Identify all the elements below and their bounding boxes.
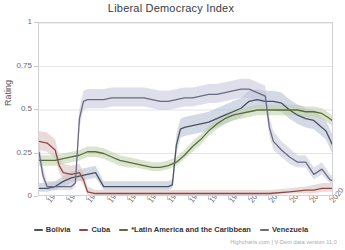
- y-axis-tick-label: 1: [0, 18, 32, 26]
- legend-label: Cuba: [91, 225, 110, 234]
- legend-item[interactable]: *Latin America and the Caribbean: [119, 225, 251, 234]
- legend-dash-icon: [34, 229, 43, 231]
- y-axis-tick-label: 0.5: [0, 105, 32, 113]
- y-axis-tick: [34, 196, 38, 197]
- legend-dash-icon: [79, 229, 88, 231]
- y-axis-tick-label: 0.75: [0, 62, 32, 70]
- chart-title: Liberal Democracy Index: [0, 2, 342, 14]
- chart-legend: BoliviaCuba*Latin America and the Caribb…: [0, 225, 342, 234]
- y-axis-title: Rating: [3, 63, 13, 123]
- credits-text: Highcharts.com | V-Dem data version 11.0: [230, 239, 337, 245]
- legend-dash-icon: [260, 229, 269, 231]
- legend-label: *Latin America and the Caribbean: [131, 225, 251, 234]
- y-axis-tick-label: 0: [0, 192, 32, 200]
- legend-item[interactable]: Cuba: [79, 225, 110, 234]
- y-axis-tick-label: 0.25: [0, 149, 32, 157]
- legend-label: Venezuela: [272, 225, 308, 234]
- legend-item[interactable]: Bolivia: [34, 225, 71, 234]
- legend-dash-icon: [119, 229, 128, 231]
- legend-label: Bolivia: [46, 225, 71, 234]
- plot-area: [38, 22, 333, 196]
- plot-svg: [39, 23, 333, 196]
- legend-item[interactable]: Venezuela: [260, 225, 308, 234]
